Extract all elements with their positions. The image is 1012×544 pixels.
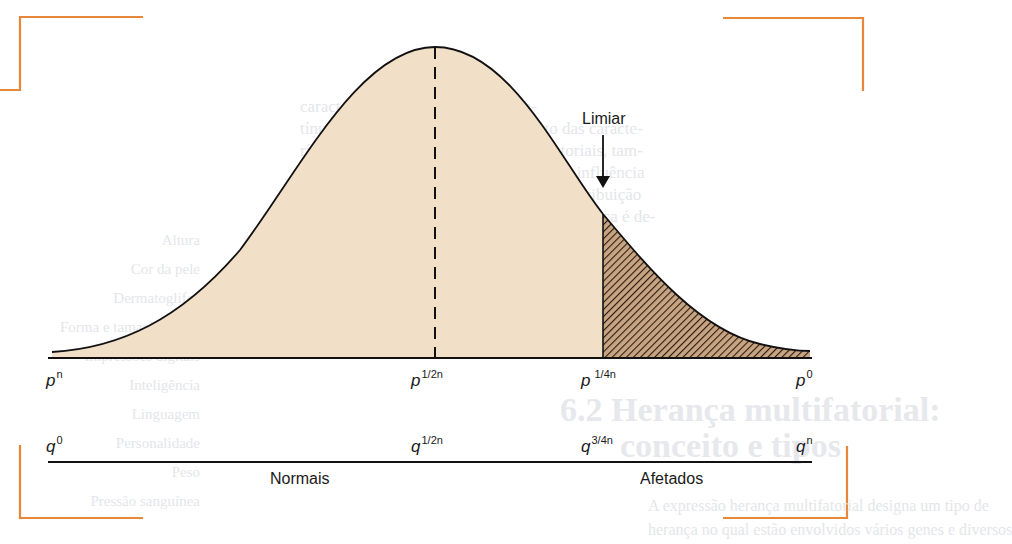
q-label-n: qn xyxy=(796,434,813,457)
p-exp: 0 xyxy=(806,368,812,380)
q-label-zero: q0 xyxy=(46,434,63,457)
p-base: p xyxy=(581,371,590,390)
q-label-three-quarter: q3/4n xyxy=(581,434,613,457)
normal-group-label: Normais xyxy=(270,470,330,488)
p-base: p xyxy=(411,371,420,390)
p-label-zero: p0 xyxy=(796,368,813,391)
q-exp: 3/4n xyxy=(591,434,612,446)
p-base: p xyxy=(796,371,805,390)
p-exp: n xyxy=(56,368,62,380)
q-base: q xyxy=(581,437,590,456)
p-label-half: p1/2n xyxy=(411,368,443,391)
p-exp: 1/4n xyxy=(594,368,615,380)
q-label-half: q1/2n xyxy=(411,434,443,457)
p-label-n: pn xyxy=(46,368,63,391)
q-exp: 0 xyxy=(56,434,62,446)
p-base: p xyxy=(46,371,55,390)
q-base: q xyxy=(46,437,55,456)
q-exp: n xyxy=(806,434,812,446)
p-exp: 1/2n xyxy=(421,368,442,380)
affected-group-label: Afetados xyxy=(640,470,703,488)
p-label-quarter: p1/4n xyxy=(581,368,616,391)
threshold-arrow-icon xyxy=(596,135,610,188)
threshold-label: Limiar xyxy=(582,110,626,128)
q-base: q xyxy=(796,437,805,456)
q-exp: 1/2n xyxy=(421,434,442,446)
q-base: q xyxy=(411,437,420,456)
